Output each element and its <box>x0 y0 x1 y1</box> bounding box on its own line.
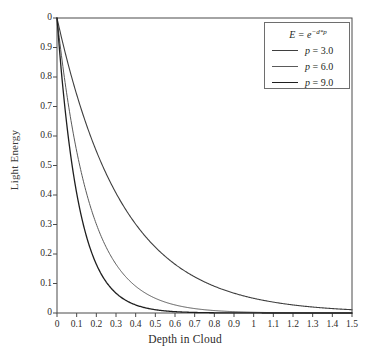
y-tick-label: 0.9 <box>20 42 52 52</box>
legend-entry: p = 3.0 <box>265 43 351 58</box>
y-tick-label: 0.2 <box>20 248 52 258</box>
legend-title: E = e−d*p <box>265 28 351 40</box>
y-tick-label: 0.6 <box>20 130 52 140</box>
legend-value: = 6.0 <box>310 61 333 72</box>
legend-entry-label: p = 6.0 <box>305 61 333 72</box>
legend-entry: p = 9.0 <box>265 75 351 90</box>
y-tick-label: 0.3 <box>20 219 52 229</box>
x-axis-title: Depth in Cloud <box>0 333 370 345</box>
y-tick-label: 0.8 <box>20 71 52 81</box>
y-axis-title-text: Light Energy <box>8 130 20 191</box>
legend-line-swatch <box>272 50 298 51</box>
legend-line-swatch <box>272 66 298 67</box>
legend-title-base: E = e <box>289 29 311 40</box>
y-tick-label: 0 <box>20 12 52 22</box>
y-tick-label: 0.5 <box>20 160 52 170</box>
legend-entry: p = 6.0 <box>265 59 351 74</box>
legend-value: = 3.0 <box>310 45 333 56</box>
legend-title-exponent: −d*p <box>312 28 327 36</box>
legend-line-swatch <box>272 82 298 83</box>
y-tick-label: 0.7 <box>20 101 52 111</box>
legend-value: = 9.0 <box>310 77 333 88</box>
x-tick-label: 1.5 <box>338 319 366 329</box>
y-tick-label: 0.1 <box>20 278 52 288</box>
y-tick-label: 0 <box>20 307 52 317</box>
y-tick-label: 0.4 <box>20 189 52 199</box>
legend: E = e−d*p p = 3.0p = 6.0p = 9.0 <box>264 22 350 89</box>
legend-entry-label: p = 3.0 <box>305 45 333 56</box>
figure-container: Light Energy Depth in Cloud 00.90.80.70.… <box>0 0 370 360</box>
legend-entry-label: p = 9.0 <box>305 77 333 88</box>
